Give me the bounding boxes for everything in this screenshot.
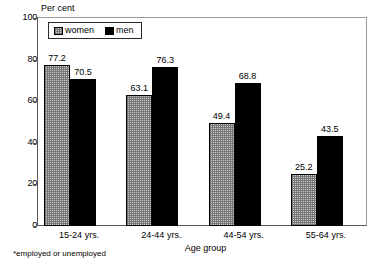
y-tick-label: 60 <box>3 96 37 105</box>
y-tick-mark <box>33 18 37 19</box>
y-tick-label: 40 <box>3 138 37 147</box>
x-tick-label: 55-64 yrs. <box>285 230 367 240</box>
bar-value-label: 63.1 <box>121 84 157 93</box>
y-axis-title: Per cent <box>41 3 75 13</box>
x-tick-label: 44-54 yrs. <box>203 230 285 240</box>
bar-men <box>70 79 96 226</box>
bar-women <box>44 65 70 226</box>
y-tick-label: 20 <box>3 179 37 188</box>
y-tick-mark <box>33 60 37 61</box>
bar-men <box>235 83 261 226</box>
y-tick-mark <box>33 226 37 227</box>
bar-value-label: 70.5 <box>65 68 101 77</box>
bar-value-label: 68.8 <box>230 72 266 81</box>
bar-value-label: 43.5 <box>312 125 348 134</box>
bar-women <box>291 174 317 226</box>
y-tick-mark <box>33 101 37 102</box>
x-tick-label: 15-24 yrs. <box>38 230 120 240</box>
bar-women <box>209 123 235 226</box>
bar-value-label: 77.2 <box>39 54 75 63</box>
y-tick-mark <box>33 143 37 144</box>
bar-value-label: 76.3 <box>147 56 183 65</box>
bar-value-label: 49.4 <box>204 112 240 121</box>
bar-women <box>126 95 152 226</box>
bar-value-label: 25.2 <box>286 163 322 172</box>
bars-layer <box>38 18 367 226</box>
x-axis-title-text: Age group <box>185 243 227 253</box>
chart-footnote: *employed or unemployed <box>13 249 106 258</box>
y-tick-label: 0 <box>3 221 37 230</box>
y-tick-label: 80 <box>3 55 37 64</box>
bar-men <box>317 136 343 226</box>
bar-chart: Per cent 100806040200 women men 77.270.5… <box>0 0 379 262</box>
x-tick-label: 24-44 yrs. <box>120 230 202 240</box>
y-tick-mark <box>33 184 37 185</box>
y-tick-label: 100 <box>3 13 37 22</box>
y-axis: 100806040200 <box>0 0 37 262</box>
